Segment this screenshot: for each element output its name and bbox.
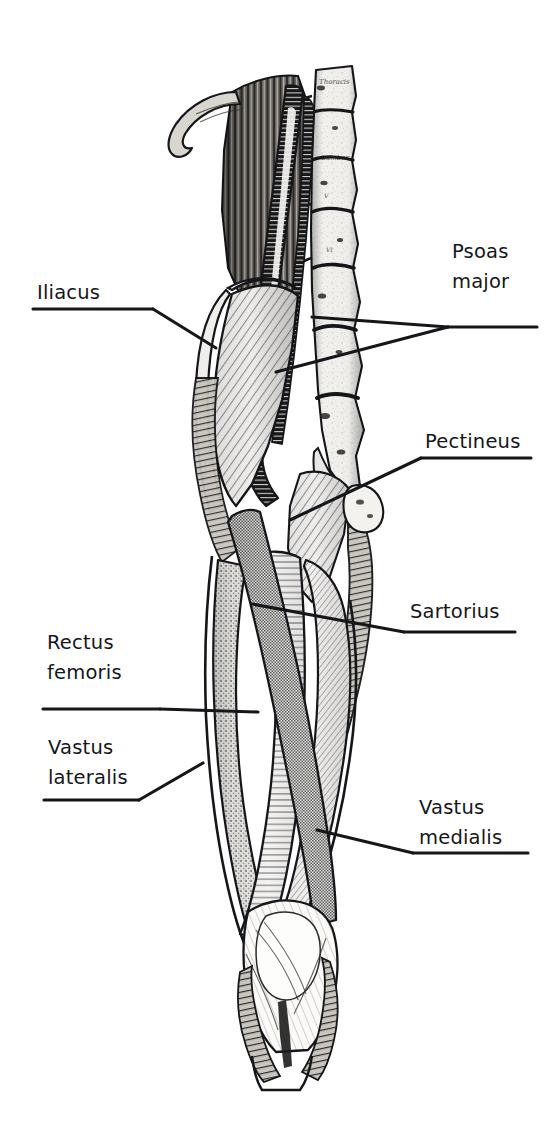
label-rectus-femoris-line-1: femoris — [47, 658, 122, 688]
leader-rectus-femoris — [160, 709, 258, 712]
inscription-lumborum: Lumbor. — [320, 154, 350, 162]
label-sartorius-line-0: Sartorius — [410, 597, 500, 627]
label-vastus-medialis-line-0: Vastus — [419, 793, 502, 823]
label-vastus-lateralis: Vastus lateralis — [48, 733, 128, 793]
label-sartorius: Sartorius — [410, 597, 500, 627]
label-psoas-major: Psoas major — [452, 237, 509, 297]
label-psoas-major-line-0: Psoas — [452, 237, 509, 267]
svg-text:VI: VI — [326, 246, 333, 253]
label-vastus-medialis: Vastus medialis — [419, 793, 502, 853]
label-psoas-major-line-1: major — [452, 267, 509, 297]
leader-vastus-lateralis — [139, 763, 203, 800]
label-pectineus-line-0: Pectineus — [425, 427, 521, 457]
label-vastus-medialis-line-1: medialis — [419, 823, 502, 853]
label-vastus-lateralis-line-1: lateralis — [48, 763, 128, 793]
label-vastus-lateralis-line-0: Vastus — [48, 733, 128, 763]
anatomical-plate: Thoracis Lumbor. V VI — [0, 0, 550, 1133]
label-iliacus-line-0: Iliacus — [37, 278, 100, 308]
label-pectineus: Pectineus — [425, 427, 521, 457]
svg-text:V: V — [324, 192, 329, 199]
label-rectus-femoris: Rectus femoris — [47, 628, 122, 688]
inscription-thoracis: Thoracis — [319, 78, 350, 86]
knee-region — [238, 900, 337, 1090]
label-rectus-femoris-line-0: Rectus — [47, 628, 122, 658]
illustration-body: Thoracis Lumbor. V VI — [33, 66, 537, 1090]
label-iliacus: Iliacus — [37, 278, 100, 308]
anatomy-figure: Thoracis Lumbor. V VI — [0, 0, 550, 1133]
